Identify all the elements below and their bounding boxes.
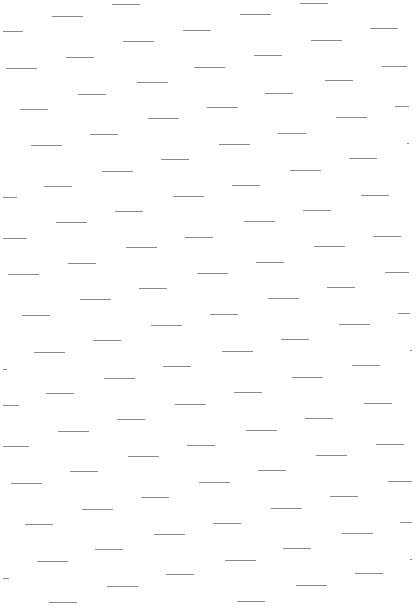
dash-mark bbox=[330, 496, 358, 497]
dash-mark bbox=[163, 366, 191, 367]
dash-mark bbox=[70, 471, 98, 472]
dash-mark bbox=[258, 470, 286, 471]
dash-mark bbox=[126, 247, 157, 248]
dash-mark bbox=[225, 560, 256, 561]
dash-mark bbox=[370, 28, 398, 29]
dash-mark bbox=[115, 211, 143, 212]
dash-mark bbox=[20, 109, 48, 110]
dash-mark bbox=[137, 82, 168, 83]
dash-mark bbox=[95, 549, 123, 550]
dash-mark bbox=[31, 145, 62, 146]
dash-mark bbox=[281, 339, 309, 340]
dash-mark bbox=[8, 274, 39, 275]
dash-mark bbox=[117, 419, 145, 420]
dash-mark bbox=[219, 144, 250, 145]
dash-mark bbox=[154, 534, 185, 535]
dash-mark bbox=[148, 118, 179, 119]
dash-mark bbox=[336, 117, 367, 118]
dash-mark bbox=[213, 523, 241, 524]
dash-mark bbox=[373, 236, 401, 237]
dash-mark bbox=[311, 40, 342, 41]
dash-mark bbox=[80, 299, 111, 300]
dash-mark bbox=[296, 585, 327, 586]
dash-pattern-canvas bbox=[0, 0, 416, 616]
dash-mark bbox=[314, 246, 345, 247]
dash-mark bbox=[173, 196, 204, 197]
dash-mark bbox=[93, 340, 121, 341]
dash-mark bbox=[49, 602, 77, 603]
dash-mark bbox=[11, 483, 42, 484]
dash-mark bbox=[385, 272, 409, 273]
dash-mark bbox=[292, 377, 323, 378]
dash-mark bbox=[123, 41, 154, 42]
dash-mark bbox=[161, 159, 189, 160]
dash-mark bbox=[90, 134, 118, 135]
dash-mark bbox=[128, 456, 159, 457]
dash-mark bbox=[395, 106, 409, 107]
dash-mark bbox=[183, 30, 211, 31]
dash-mark bbox=[187, 445, 215, 446]
dash-mark bbox=[104, 378, 135, 379]
dash-mark bbox=[3, 31, 23, 32]
dash-mark bbox=[44, 186, 72, 187]
dash-mark bbox=[278, 133, 306, 134]
dash-mark bbox=[246, 430, 277, 431]
dash-mark bbox=[197, 273, 228, 274]
dash-mark bbox=[316, 455, 347, 456]
dash-mark bbox=[3, 578, 9, 579]
dash-mark bbox=[376, 444, 404, 445]
dash-mark bbox=[232, 185, 260, 186]
dash-mark bbox=[68, 263, 96, 264]
dash-mark bbox=[254, 55, 282, 56]
dash-mark bbox=[3, 405, 19, 406]
dash-mark bbox=[3, 446, 29, 447]
dash-mark bbox=[56, 222, 87, 223]
dash-mark bbox=[185, 237, 213, 238]
dash-mark bbox=[3, 197, 17, 198]
dash-mark bbox=[222, 351, 253, 352]
dash-mark bbox=[410, 559, 412, 560]
dash-mark bbox=[265, 93, 293, 94]
dash-mark bbox=[352, 365, 380, 366]
dash-mark bbox=[37, 561, 68, 562]
dash-mark bbox=[141, 497, 169, 498]
dash-mark bbox=[256, 262, 284, 263]
dash-mark bbox=[325, 80, 353, 81]
dash-mark bbox=[388, 481, 412, 482]
dash-mark bbox=[112, 4, 140, 5]
dash-mark bbox=[400, 522, 412, 523]
dash-mark bbox=[207, 107, 238, 108]
dash-mark bbox=[166, 574, 194, 575]
dash-mark bbox=[151, 325, 182, 326]
dash-mark bbox=[339, 324, 370, 325]
dash-mark bbox=[364, 403, 392, 404]
dash-mark bbox=[46, 393, 74, 394]
dash-mark bbox=[237, 601, 265, 602]
dash-mark bbox=[407, 143, 409, 144]
dash-mark bbox=[271, 508, 302, 509]
dash-mark bbox=[107, 586, 138, 587]
dash-mark bbox=[290, 170, 321, 171]
dash-mark bbox=[210, 314, 238, 315]
dash-mark bbox=[82, 509, 113, 510]
dash-mark bbox=[283, 548, 311, 549]
dash-mark bbox=[3, 369, 7, 370]
dash-mark bbox=[22, 315, 50, 316]
dash-mark bbox=[342, 533, 373, 534]
dash-mark bbox=[300, 3, 328, 4]
dash-mark bbox=[268, 298, 299, 299]
dash-mark bbox=[244, 221, 275, 222]
dash-mark bbox=[6, 68, 37, 69]
dash-mark bbox=[194, 67, 225, 68]
dash-mark bbox=[327, 287, 355, 288]
dash-mark bbox=[66, 57, 94, 58]
dash-mark bbox=[34, 352, 65, 353]
dash-mark bbox=[58, 431, 89, 432]
dash-mark bbox=[25, 524, 53, 525]
dash-mark bbox=[199, 482, 230, 483]
dash-mark bbox=[139, 288, 167, 289]
dash-mark bbox=[240, 14, 271, 15]
dash-mark bbox=[52, 16, 83, 17]
dash-mark bbox=[102, 171, 133, 172]
dash-mark bbox=[349, 158, 377, 159]
